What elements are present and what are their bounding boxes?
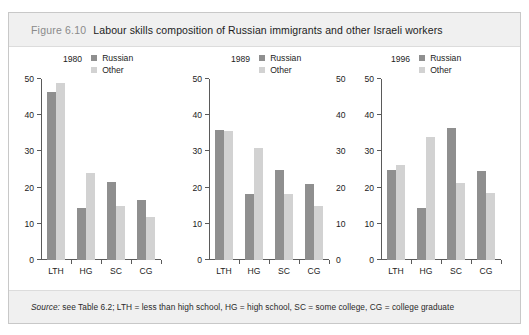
source-note: Source: see Table 6.2; LTH = less than h…: [31, 302, 454, 312]
bar-russian: [305, 184, 314, 260]
bar-group: CG: [471, 171, 501, 260]
chart-panel-1980: 1980RussianOther01020304050LTHHGSCCG: [15, 47, 183, 290]
y-axis-tick-label: 50: [24, 74, 34, 84]
bar-other: [254, 148, 263, 260]
y-axis-tick-label: 30: [24, 146, 34, 156]
x-axis-tick: [501, 260, 502, 264]
x-axis-category-label: CG: [140, 266, 153, 276]
y-axis-tick-label: 0: [29, 255, 34, 265]
y-axis-tick-label: 50: [364, 74, 374, 84]
panel-year-label: 1996: [391, 53, 410, 64]
legend-item-other: Other: [91, 65, 133, 75]
legend-label: Russian: [430, 53, 461, 63]
y-axis-tick-label: 20: [364, 183, 374, 193]
legend-label: Russian: [270, 53, 301, 63]
x-axis-category-label: SC: [278, 266, 290, 276]
bar-group: LTH: [381, 165, 411, 260]
bar-group: HG: [239, 148, 269, 260]
source-label: Source:: [31, 302, 60, 312]
bar-other: [146, 217, 155, 260]
y-axis-tick: [377, 150, 381, 151]
figure-container: Figure 6.10 Labour skills composition of…: [0, 0, 529, 335]
bar-other: [486, 193, 495, 260]
x-axis-tick: [299, 260, 300, 264]
chart-panel-1989: 1989RussianOther0010102020303040405050LT…: [183, 47, 343, 290]
x-axis-category-label: SC: [450, 266, 462, 276]
legend-item-other: Other: [259, 65, 301, 75]
bar-group: LTH: [209, 130, 239, 260]
y-axis-tick: [37, 78, 41, 79]
x-axis-category-label: LTH: [48, 266, 64, 276]
plot-area-1989: 0010102020303040405050LTHHGSCCG: [209, 79, 329, 260]
figure-frame: Figure 6.10 Labour skills composition of…: [8, 12, 521, 324]
y-axis-tick: [205, 78, 209, 79]
bar-russian: [77, 208, 86, 260]
bar-group: CG: [299, 184, 329, 260]
bar-group: LTH: [41, 83, 71, 260]
bar-other: [314, 206, 323, 260]
y-axis-tick-label: 20: [192, 183, 202, 193]
legend-keys: RussianOther: [91, 53, 133, 75]
bar-group: SC: [441, 128, 471, 260]
x-axis-category-label: LTH: [216, 266, 232, 276]
bar-russian: [107, 182, 116, 260]
legend-1996: 1996RussianOther: [391, 53, 461, 75]
legend-swatch-icon: [259, 67, 265, 73]
y-axis-tick-label: 10: [24, 219, 34, 229]
figure-source-band: Source: see Table 6.2; LTH = less than h…: [9, 290, 520, 323]
y-axis-tick-label: 0: [369, 255, 374, 265]
figure-title-band: Figure 6.10 Labour skills composition of…: [9, 13, 520, 47]
legend-swatch-icon: [91, 55, 97, 61]
chart-panel-1996: 1996RussianOther01020304050LTHHGSCCG: [343, 47, 518, 290]
x-axis-tick: [441, 260, 442, 264]
legend-swatch-icon: [419, 67, 425, 73]
x-axis-tick: [471, 260, 472, 264]
chart-panels: 1980RussianOther01020304050LTHHGSCCG 198…: [9, 47, 520, 290]
legend-swatch-icon: [259, 55, 265, 61]
y-axis-tick: [377, 78, 381, 79]
legend-keys: RussianOther: [259, 53, 301, 75]
plot-area-1996: 01020304050LTHHGSCCG: [381, 79, 501, 260]
bar-russian: [387, 170, 396, 261]
legend-label: Russian: [102, 53, 133, 63]
x-axis-tick: [101, 260, 102, 264]
y-axis-tick-label: 40: [24, 110, 34, 120]
bar-russian: [477, 171, 486, 260]
panel-year-label: 1989: [231, 53, 250, 64]
y-axis-tick-label: 50: [192, 74, 202, 84]
legend-keys: RussianOther: [419, 53, 461, 75]
bar-other: [456, 183, 465, 260]
bar-russian: [417, 208, 426, 260]
x-axis-tick: [411, 260, 412, 264]
bar-russian: [137, 200, 146, 260]
legend-label: Other: [102, 65, 124, 75]
x-axis-tick: [329, 260, 330, 264]
bar-other: [396, 165, 405, 260]
legend-swatch-icon: [419, 55, 425, 61]
bar-russian: [275, 170, 284, 261]
y-axis-tick: [205, 114, 209, 115]
bar-other: [116, 206, 125, 260]
x-axis-tick: [131, 260, 132, 264]
y-axis-tick-label: 40: [192, 110, 202, 120]
x-axis-category-label: CG: [480, 266, 493, 276]
x-axis-tick: [269, 260, 270, 264]
bar-group: SC: [269, 170, 299, 261]
bar-russian: [215, 130, 224, 260]
figure-title: Labour skills composition of Russian imm…: [93, 24, 442, 36]
panel-year-label: 1980: [63, 53, 82, 64]
bar-group: CG: [131, 200, 161, 260]
plot-area-1980: 01020304050LTHHGSCCG: [41, 79, 161, 260]
legend-swatch-icon: [91, 67, 97, 73]
bar-other: [86, 173, 95, 260]
x-axis-category-label: HG: [420, 266, 433, 276]
bar-group: HG: [411, 137, 441, 260]
bar-other: [56, 83, 65, 260]
legend-item-russian: Russian: [259, 53, 301, 63]
bar-other: [426, 137, 435, 260]
bar-other: [224, 131, 233, 260]
y-axis-tick: [377, 114, 381, 115]
bar-russian: [447, 128, 456, 260]
y-axis-tick-label: 10: [192, 219, 202, 229]
legend-label: Other: [270, 65, 292, 75]
